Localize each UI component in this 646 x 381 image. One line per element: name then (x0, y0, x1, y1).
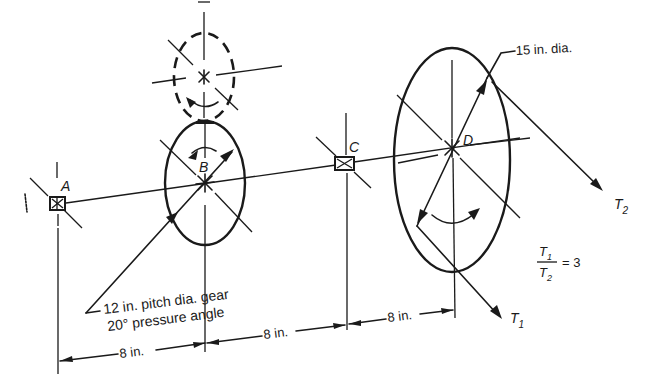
label-d: D (463, 132, 473, 148)
pulley-diameter-label: 15 in. dia. (515, 40, 572, 58)
svg-text:T1: T1 (539, 244, 552, 262)
dimension-c-d: 8 in. (387, 307, 413, 325)
label-a: A (60, 178, 70, 194)
bearing-c (316, 113, 371, 330)
pulley-d (394, 48, 603, 319)
dashed-mating-gear (152, 12, 282, 121)
bearing-a (30, 162, 82, 228)
tension-t1-label: T1 (510, 310, 524, 330)
shaft-assembly-diagram: A B 12 (0, 0, 646, 381)
tension-t2-label: T2 (614, 196, 629, 216)
tension-ratio: T1 T2 = 3 (537, 244, 580, 283)
label-b: B (199, 159, 208, 175)
stray-mark (25, 194, 27, 212)
svg-text:= 3: = 3 (562, 255, 580, 270)
dimension-b-c: 8 in. (263, 324, 289, 342)
label-c: C (349, 139, 360, 155)
dimension-a-b: 8 in. (119, 343, 145, 361)
svg-text:T2: T2 (539, 265, 552, 283)
